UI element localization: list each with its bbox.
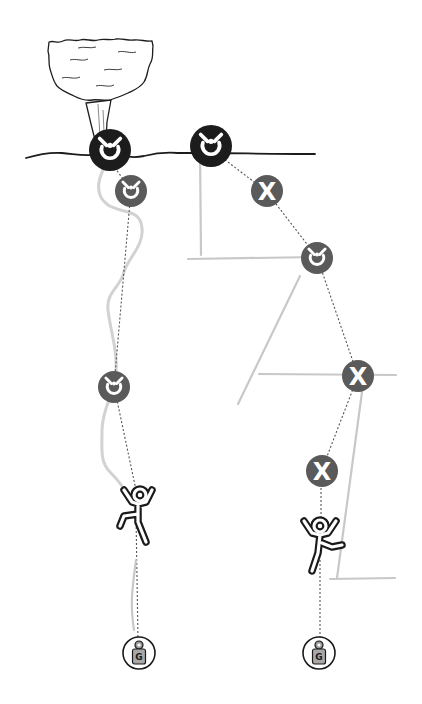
left-main-anchor	[89, 129, 131, 171]
svg-text:X: X	[349, 363, 368, 391]
left-protection-1	[115, 175, 147, 207]
right-protection-ring	[301, 242, 333, 274]
left-gri-gri-icon: G	[123, 637, 155, 669]
left-climber-icon	[120, 489, 152, 542]
right-climber-icon	[304, 520, 342, 571]
left-protection-2	[98, 371, 130, 403]
right-gri-gri-icon: G	[303, 637, 335, 669]
right-failed-protection-3: X	[306, 455, 338, 487]
right-gri-gri-letter: G	[315, 652, 322, 662]
ground-line	[26, 153, 315, 158]
right-main-anchor	[190, 125, 232, 167]
right-fall-line	[212, 150, 358, 640]
left-rope	[99, 168, 143, 496]
svg-text:X: X	[313, 458, 332, 486]
right-failed-protection-2: X	[342, 360, 374, 392]
tree-icon	[48, 39, 153, 140]
svg-text:X: X	[258, 178, 277, 206]
climbing-fall-diagram: G X X X	[0, 0, 422, 704]
left-gri-gri-letter: G	[135, 652, 142, 662]
right-failed-protection-1: X	[251, 175, 283, 207]
